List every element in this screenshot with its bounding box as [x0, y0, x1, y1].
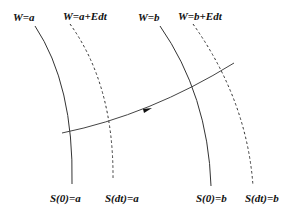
curve-w-a — [35, 26, 72, 184]
diagram-canvas — [0, 0, 292, 214]
label-sdt-b: S(dt)=b — [245, 193, 279, 204]
curve-w-b — [160, 26, 211, 186]
label-w-b-edt: W=b+Edt — [178, 11, 222, 22]
label-w-b: W=b — [138, 12, 160, 23]
label-s0-a: S(0)=a — [50, 193, 81, 204]
label-w-a: W=a — [13, 12, 35, 23]
curve-w-a-edt — [70, 24, 113, 180]
label-w-a-edt: W=a+Edt — [63, 11, 107, 22]
curve-w-b-edt — [193, 24, 253, 186]
trajectory-curve — [62, 63, 234, 133]
label-s0-b: S(0)=b — [196, 193, 227, 204]
label-sdt-a: S(dt)=a — [105, 193, 139, 204]
